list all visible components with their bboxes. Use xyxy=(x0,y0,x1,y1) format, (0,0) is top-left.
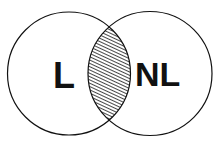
venn-diagram: L NL xyxy=(0,0,216,143)
set-left-label: L xyxy=(53,55,75,96)
set-right-label: NL xyxy=(135,55,180,93)
